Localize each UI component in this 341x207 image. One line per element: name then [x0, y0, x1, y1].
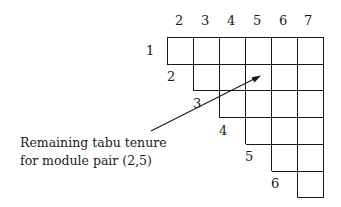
annotation-line-1: Remaining tabu tenure [20, 134, 167, 152]
annotation-line-2: for module pair (2,5) [20, 152, 152, 170]
triangular-grid [0, 0, 341, 207]
arrow-pointer-icon [151, 76, 261, 132]
